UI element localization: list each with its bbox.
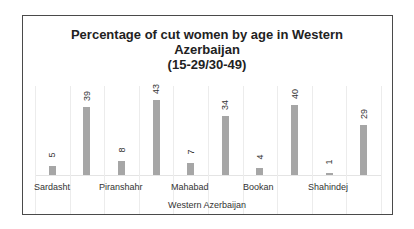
data-label: 29	[359, 104, 369, 124]
grid-line	[346, 86, 347, 214]
bar	[118, 161, 125, 175]
data-label: 39	[82, 86, 92, 106]
grid-line	[139, 86, 140, 214]
grid-line	[312, 86, 313, 214]
bar	[326, 173, 333, 175]
data-label: 5	[47, 145, 57, 165]
grid-line	[35, 86, 36, 214]
grid-line	[173, 86, 174, 214]
grid-line	[70, 86, 71, 214]
bar	[222, 116, 229, 175]
grid-line	[277, 86, 278, 214]
data-label: 7	[186, 142, 196, 162]
grid-line	[208, 86, 209, 214]
category-label: Shahindej	[308, 182, 348, 192]
data-label: 4	[255, 147, 265, 167]
grid-line	[243, 86, 244, 214]
bar	[291, 105, 298, 175]
data-label: 34	[220, 95, 230, 115]
bar	[256, 168, 263, 175]
data-label: 43	[151, 79, 161, 99]
bar	[83, 107, 90, 175]
category-label: Piranshahr	[99, 182, 143, 192]
grid-line	[104, 86, 105, 214]
bar	[360, 125, 367, 175]
bar	[49, 166, 56, 175]
data-label: 1	[324, 152, 334, 172]
data-label: 40	[290, 84, 300, 104]
data-label: 8	[117, 140, 127, 160]
bar	[187, 163, 194, 175]
grid-line	[381, 86, 382, 214]
plot-area: 539843734440129	[0, 0, 414, 229]
x-axis-title: Western Azerbaijan	[0, 200, 414, 210]
bar	[153, 100, 160, 175]
category-label: Bookan	[243, 182, 274, 192]
category-label: Sardasht	[34, 182, 70, 192]
category-label: Mahabad	[171, 182, 209, 192]
